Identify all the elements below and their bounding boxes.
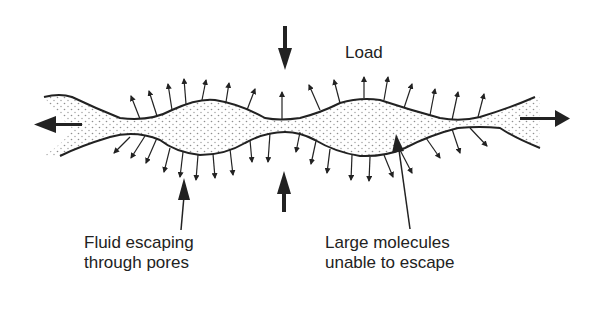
- large-molecules-label: Large molecules unable to escape: [325, 233, 455, 273]
- fluid-leader-arrow: [178, 178, 190, 230]
- load-arrow-bottom: [277, 171, 291, 212]
- fluid-label-line2: through pores: [84, 253, 194, 273]
- fluid-label-line1: Fluid escaping: [84, 233, 194, 253]
- fluid-escaping-label: Fluid escaping through pores: [84, 233, 194, 273]
- molecules-leader-arrow: [392, 134, 410, 229]
- tissue-outline-top: [44, 95, 535, 120]
- tissue-body: [44, 95, 540, 156]
- molecules-label-line1: Large molecules: [325, 233, 455, 253]
- load-label: Load: [345, 43, 383, 63]
- load-arrow-top: [278, 26, 292, 70]
- molecules-label-line2: unable to escape: [325, 253, 455, 273]
